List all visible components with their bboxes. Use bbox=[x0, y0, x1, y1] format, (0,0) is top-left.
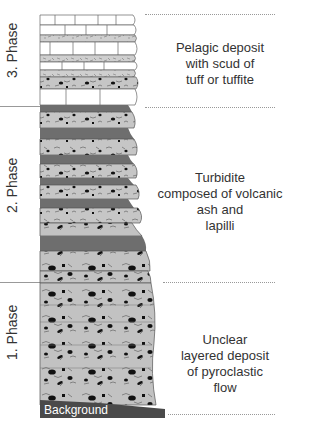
separator-top bbox=[145, 14, 275, 15]
separator-2-1 bbox=[163, 282, 275, 283]
phase-3-layers bbox=[40, 15, 138, 105]
phase-2-layers bbox=[40, 105, 151, 283]
phase-2-description: Turbidite composed of volcanic ash and l… bbox=[148, 170, 292, 234]
phase-3-description: Pelagic deposit with scud of tuff or tuf… bbox=[150, 40, 290, 88]
background-label: Background bbox=[44, 403, 108, 417]
separator-bottom bbox=[168, 414, 275, 415]
separator-3-2 bbox=[145, 107, 275, 108]
phase-1-description: Unclear layered deposit of pyroclastic f… bbox=[160, 332, 290, 396]
phase-1-layers bbox=[40, 283, 156, 405]
